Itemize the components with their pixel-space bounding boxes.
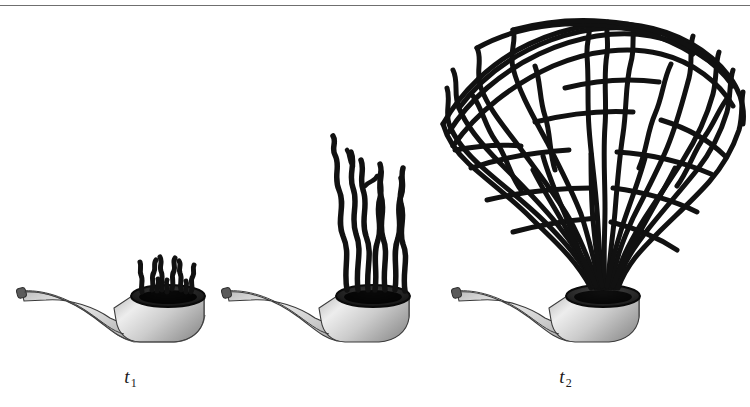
- time-label-t1-subscript: 1: [131, 376, 137, 390]
- pipe-illustration-t1: [0, 0, 230, 407]
- panel-t2: t2: [215, 0, 435, 407]
- pipe-illustration-t2: [215, 0, 435, 407]
- smoke-cloud-t3: [443, 21, 743, 288]
- figure-canvas: t1: [0, 0, 750, 407]
- pipe-illustration-t3: [425, 0, 750, 407]
- time-label-t1-symbol: t: [124, 366, 129, 387]
- panel-t3: t3: [425, 0, 750, 407]
- time-label-t1: t1: [70, 366, 190, 388]
- stem-tip-t1: [16, 287, 27, 299]
- smoke-strands-t2: [333, 136, 406, 291]
- stem-tip-t2: [221, 287, 232, 299]
- panel-t1: t1: [0, 0, 230, 407]
- stem-tip-t3: [451, 287, 462, 299]
